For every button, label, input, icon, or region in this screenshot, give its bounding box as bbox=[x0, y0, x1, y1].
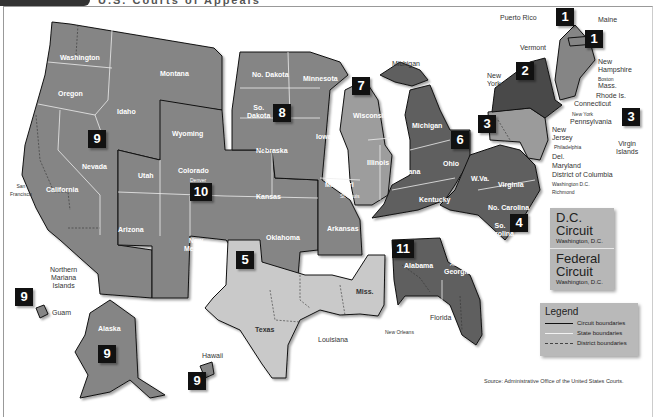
source-note: Source: Administrative Office of the Uni… bbox=[484, 378, 624, 384]
circuit-3-badge: 3 bbox=[478, 115, 496, 133]
state-label-no-dakota: No. Dakota bbox=[252, 71, 289, 79]
circuit-11-badge: 11 bbox=[392, 240, 414, 258]
state-label-wyoming: Wyoming bbox=[172, 130, 203, 138]
label-connecticut: Connecticut bbox=[574, 100, 611, 108]
circuit-2-badge: 2 bbox=[516, 62, 534, 80]
state-label-tennessee: Tennessee bbox=[414, 216, 450, 224]
label-michigan-upper: Michigan bbox=[392, 60, 420, 68]
state-label-michigan: Michigan bbox=[412, 122, 442, 130]
circuit-7-badge: 7 bbox=[352, 77, 370, 95]
label-vermont: Vermont bbox=[520, 44, 546, 52]
state-label-new-mexico: New Mexico bbox=[184, 237, 208, 253]
alaska-shape bbox=[75, 300, 165, 398]
district-line-swatch bbox=[545, 343, 573, 344]
label-washington-dc: Washington D.C. bbox=[552, 180, 590, 188]
state-label-wva: W.Va. bbox=[471, 175, 489, 183]
circuit-line-swatch bbox=[545, 323, 573, 324]
state-label-alaska: Alaska bbox=[98, 325, 121, 333]
label-new-hampshire: New Hampshire bbox=[598, 58, 632, 74]
label-northern-mariana-islands: Northern Mariana Islands bbox=[50, 266, 77, 290]
legend-label: State boundaries bbox=[577, 330, 622, 336]
state-label-alabama: Alabama bbox=[404, 262, 433, 270]
label-philadelphia: Philadelphia bbox=[554, 143, 581, 151]
label-san-francisco: San Francisco bbox=[10, 182, 32, 198]
legend-title: Legend bbox=[540, 303, 638, 318]
state-label-arkansas: Arkansas bbox=[327, 225, 359, 233]
state-label-kentucky: Kentucky bbox=[419, 196, 451, 204]
circuit-1-badge: 1 bbox=[585, 30, 603, 48]
guam-shape bbox=[36, 305, 48, 318]
label-new-jersey: New Jersey bbox=[552, 126, 573, 142]
label-new-york: New York bbox=[487, 72, 501, 88]
state-label-miss: Miss. bbox=[356, 288, 374, 296]
label-hawaii: Hawaii bbox=[202, 352, 223, 360]
circuit-9-badge-alaska: 9 bbox=[98, 345, 116, 363]
state-label-oklahoma: Oklahoma bbox=[266, 234, 300, 242]
state-label-georgia: Georgia bbox=[444, 268, 470, 276]
state-label-nebraska: Nebraska bbox=[256, 147, 288, 155]
state-label-washington: Washington bbox=[60, 54, 100, 62]
dc-circuit-location: Washington, D.C. bbox=[556, 237, 608, 245]
state-label-ohio: Ohio bbox=[443, 160, 459, 168]
legend-item-district: District boundaries bbox=[540, 338, 638, 348]
label-new-york-city: New York bbox=[572, 110, 593, 118]
map-legend: Legend Circuit boundaries State boundari… bbox=[540, 303, 638, 356]
state-label-utah: Utah bbox=[138, 172, 154, 180]
label-st-louis: St. Louis bbox=[340, 192, 359, 200]
state-label-no-carolina: No. Carolina bbox=[488, 204, 529, 212]
label-pennsylvania: Pennsylvania bbox=[570, 118, 612, 126]
label-guam: Guam bbox=[52, 309, 71, 317]
circuit-1-badge-puerto-rico: 1 bbox=[556, 8, 574, 26]
legend-item-state: State boundaries bbox=[540, 328, 638, 338]
state-label-indiana: Indiana bbox=[396, 168, 421, 176]
label-mass: Mass. bbox=[598, 82, 617, 90]
circuit-9-badge-hawaii: 9 bbox=[188, 372, 206, 390]
state-line-swatch bbox=[545, 333, 573, 334]
legend-label: District boundaries bbox=[577, 340, 627, 346]
state-label-colorado: Colorado bbox=[178, 167, 209, 175]
state-label-so-carolina: So. Carolina bbox=[486, 222, 514, 238]
state-label-nevada: Nevada bbox=[82, 163, 107, 171]
state-label-oregon: Oregon bbox=[58, 90, 83, 98]
state-label-texas: Texas bbox=[255, 326, 274, 334]
state-label-california: California bbox=[46, 186, 78, 194]
state-label-missouri: Missouri bbox=[325, 181, 354, 189]
label-florida: Florida bbox=[430, 314, 451, 322]
state-label-virginia: Virginia bbox=[498, 181, 524, 189]
federal-circuit-title: Federal Circuit bbox=[556, 252, 608, 278]
legend-item-circuit: Circuit boundaries bbox=[540, 318, 638, 328]
label-district-of-columbia: District of Columbia bbox=[552, 171, 613, 179]
circuit-10-badge: 10 bbox=[190, 183, 212, 201]
circuit-9-badge: 9 bbox=[88, 130, 106, 148]
label-maine: Maine bbox=[598, 16, 617, 24]
legend-label: Circuit boundaries bbox=[577, 320, 625, 326]
dc-circuit-title: D.C. Circuit bbox=[556, 211, 608, 237]
federal-circuit-location: Washington, D.C. bbox=[556, 278, 608, 286]
label-denver: Denver bbox=[190, 176, 206, 184]
state-label-so-dakota: So. Dakota bbox=[247, 104, 270, 120]
circuit-8-badge: 8 bbox=[273, 104, 291, 122]
state-label-arizona: Arizona bbox=[118, 226, 144, 234]
label-puerto-rico: Puerto Rico bbox=[500, 14, 537, 22]
state-label-montana: Montana bbox=[160, 70, 189, 78]
state-label-wisconsin: Wisconsin bbox=[353, 112, 388, 120]
label-louisiana: Louisiana bbox=[318, 336, 348, 344]
state-label-idaho: Idaho bbox=[117, 108, 136, 116]
state-label-kansas: Kansas bbox=[256, 193, 281, 201]
label-maryland: Maryland bbox=[552, 162, 581, 170]
circuit-9-badge-guam: 9 bbox=[15, 288, 33, 306]
label-virgin-islands: Virgin Islands bbox=[616, 140, 638, 156]
label-rhode-island: Rhode Is. bbox=[596, 92, 626, 100]
label-richmond: Richmond bbox=[552, 188, 575, 196]
label-atlanta: Atlanta bbox=[450, 260, 466, 268]
circuit-3-badge-virgin-islands: 3 bbox=[622, 108, 640, 126]
dc-federal-circuit-panel: D.C. Circuit Washington, D.C. Federal Ci… bbox=[550, 208, 614, 290]
label-delaware: Del. bbox=[552, 153, 564, 161]
state-label-iowa: Iowa bbox=[316, 133, 332, 141]
state-label-minnesota: Minnesota bbox=[303, 75, 338, 83]
circuit-5-badge: 5 bbox=[236, 251, 254, 269]
circuit-6-badge: 6 bbox=[451, 131, 469, 149]
state-label-illinois: Illinois bbox=[367, 159, 389, 167]
label-new-orleans: New Orleans bbox=[385, 328, 414, 336]
